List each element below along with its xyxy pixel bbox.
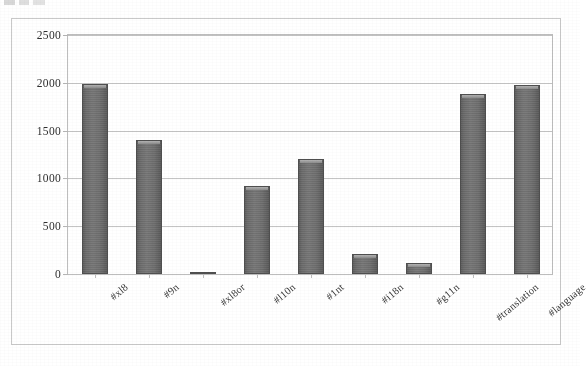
bar[interactable] <box>460 94 486 274</box>
bar-slot: #xl8 <box>68 35 122 274</box>
bar[interactable] <box>352 254 378 274</box>
x-tick-mark <box>311 274 312 278</box>
x-tick-label: #i18n <box>379 281 405 305</box>
y-tick-label: 500 <box>43 220 61 232</box>
bar[interactable] <box>298 159 324 274</box>
bar[interactable] <box>244 186 270 274</box>
y-tick-label: 2500 <box>37 29 61 41</box>
x-tick-label: #language <box>546 281 588 318</box>
x-tick-label: #g11n <box>434 281 462 307</box>
plot-area: 05001000150020002500 #xl8#9n#xl8or#l10n#… <box>67 34 553 275</box>
bar[interactable] <box>82 84 108 274</box>
bar[interactable] <box>136 140 162 274</box>
y-tick-mark <box>63 274 68 275</box>
bar-slot: #9n <box>122 35 176 274</box>
x-tick-label: #9n <box>161 281 181 300</box>
bar-series: #xl8#9n#xl8or#l10n#1nt#i18n#g11n#transla… <box>68 35 552 274</box>
y-tick-label: 0 <box>55 268 61 280</box>
x-tick-mark <box>149 274 150 278</box>
x-tick-label: #l10n <box>271 281 297 305</box>
bar-slot: #xl8or <box>176 35 230 274</box>
x-tick-mark <box>203 274 204 278</box>
bar-slot: #g11n <box>392 35 446 274</box>
x-tick-mark <box>257 274 258 278</box>
cropped-text-artifact <box>4 0 48 5</box>
bar[interactable] <box>406 263 432 274</box>
x-tick-mark <box>527 274 528 278</box>
x-tick-label: #xl8or <box>218 281 247 308</box>
bar-slot: #i18n <box>338 35 392 274</box>
x-tick-mark <box>365 274 366 278</box>
y-tick-label: 1000 <box>37 172 61 184</box>
bar-slot: #translation <box>446 35 500 274</box>
bar-slot: #language <box>500 35 554 274</box>
x-tick-label: #xl8 <box>108 281 130 302</box>
y-tick-label: 2000 <box>37 77 61 89</box>
x-tick-label: #translation <box>494 281 541 323</box>
bar[interactable] <box>514 85 540 274</box>
chart-frame: 05001000150020002500 #xl8#9n#xl8or#l10n#… <box>11 18 561 345</box>
x-tick-mark <box>473 274 474 278</box>
bar-slot: #l10n <box>230 35 284 274</box>
bar-slot: #1nt <box>284 35 338 274</box>
x-tick-mark <box>95 274 96 278</box>
x-tick-mark <box>419 274 420 278</box>
x-tick-label: #1nt <box>324 281 346 302</box>
y-tick-label: 1500 <box>37 125 61 137</box>
